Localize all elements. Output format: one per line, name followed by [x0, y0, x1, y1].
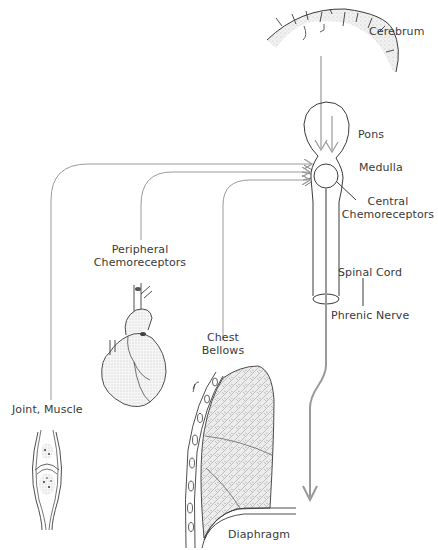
- label-medulla: Medulla: [359, 161, 403, 174]
- label-central-chemoreceptors: Central Chemoreceptors: [338, 195, 438, 221]
- joint-muscle-illustration: [32, 430, 61, 530]
- phrenic-nerve-pathway: [310, 188, 326, 497]
- label-peripheral-chemoreceptors: Peripheral Chemoreceptors: [90, 243, 190, 269]
- label-chest-line2: Bellows: [200, 344, 246, 357]
- medulla-circle: [314, 164, 338, 188]
- lung-illustration: [201, 366, 274, 538]
- label-pons: Pons: [358, 128, 384, 141]
- heart-illustration: [102, 283, 166, 407]
- label-joint-muscle: Joint, Muscle: [12, 403, 83, 416]
- label-peripheral-line1: Peripheral: [90, 243, 190, 256]
- label-cerebrum: Cerebrum: [369, 25, 425, 38]
- label-spinal-cord: Spinal Cord: [338, 266, 402, 279]
- label-central-line2: Chemoreceptors: [338, 208, 438, 221]
- label-central-line1: Central: [338, 195, 438, 208]
- label-phrenic-nerve: Phrenic Nerve: [331, 309, 409, 322]
- peripheral-chemoreceptors-pathway: [141, 172, 310, 240]
- label-peripheral-line2: Chemoreceptors: [90, 256, 190, 269]
- label-diaphragm: Diaphragm: [228, 528, 290, 541]
- label-chest-line1: Chest: [200, 331, 246, 344]
- cerebrum-illustration: [267, 9, 398, 73]
- annotation-mark: [193, 382, 199, 392]
- joint-muscle-pathway: [51, 164, 312, 400]
- label-chest-bellows: Chest Bellows: [200, 331, 246, 357]
- chest-bellows-pathway: [223, 180, 310, 340]
